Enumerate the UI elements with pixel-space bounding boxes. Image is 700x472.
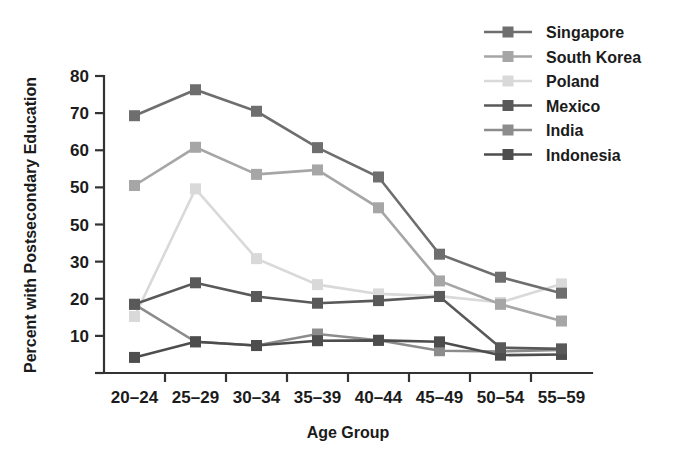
data-point-marker [556,316,567,327]
data-point-marker [190,336,201,347]
legend-swatch-marker [503,149,514,160]
data-point-marker [190,183,201,194]
data-point-marker [373,335,384,346]
x-tick-label: 30–34 [233,388,281,407]
data-point-marker [434,291,445,302]
data-point-marker [312,298,323,309]
x-tick-label: 45–49 [416,388,463,407]
y-tick-label: 80 [70,67,89,86]
data-point-marker [495,342,506,353]
data-point-marker [312,335,323,346]
y-tick-label: 20 [70,290,89,309]
legend-swatch-marker [503,76,514,87]
data-point-marker [434,275,445,286]
data-point-marker [373,295,384,306]
y-tick-label: 70 [70,104,89,123]
legend-swatch-marker [503,51,514,62]
chart-container: 1020305050607080 20–2425–2930–3435–3940–… [0,0,700,472]
legend-swatch-marker [503,100,514,111]
x-axis-title: Age Group [307,424,390,441]
data-point-marker [312,164,323,175]
data-point-marker [129,180,140,191]
data-point-marker [251,106,262,117]
line-chart: 1020305050607080 20–2425–2930–3435–3940–… [0,0,700,472]
legend-label: Indonesia [546,147,621,164]
data-point-marker [495,272,506,283]
data-point-marker [129,311,140,322]
x-tick-label: 25–29 [172,388,219,407]
y-tick-label: 10 [70,327,89,346]
x-tick-label: 55–59 [538,388,585,407]
data-point-marker [190,277,201,288]
legend-label: Mexico [546,98,600,115]
legend-label: India [546,122,583,139]
data-point-marker [129,352,140,363]
data-point-marker [434,249,445,260]
x-tick-label: 40–44 [355,388,403,407]
legend-label: South Korea [546,49,641,66]
data-point-marker [434,336,445,347]
data-point-marker [251,291,262,302]
legend-swatch-marker [503,125,514,136]
legend-swatch-marker [503,27,514,38]
data-point-marker [190,84,201,95]
data-point-marker [312,279,323,290]
data-point-marker [495,299,506,310]
data-point-marker [129,110,140,121]
data-point-marker [190,142,201,153]
legend-label: Poland [546,73,599,90]
data-point-marker [373,202,384,213]
data-point-marker [251,169,262,180]
data-point-marker [556,343,567,354]
data-point-marker [251,253,262,264]
y-tick-label: 60 [70,141,89,160]
y-axis-title: Percent with Postsecondary Education [22,77,39,373]
x-tick-label: 20–24 [111,388,159,407]
data-point-marker [129,299,140,310]
data-point-marker [251,340,262,351]
legend-label: Singapore [546,24,624,41]
data-point-marker [556,288,567,299]
x-tick-label: 35–39 [294,388,341,407]
x-tick-label: 50–54 [477,388,525,407]
y-tick-label: 50 [70,216,89,235]
y-tick-label: 30 [70,253,89,272]
y-tick-label: 50 [70,178,89,197]
data-point-marker [312,142,323,153]
data-point-marker [373,171,384,182]
